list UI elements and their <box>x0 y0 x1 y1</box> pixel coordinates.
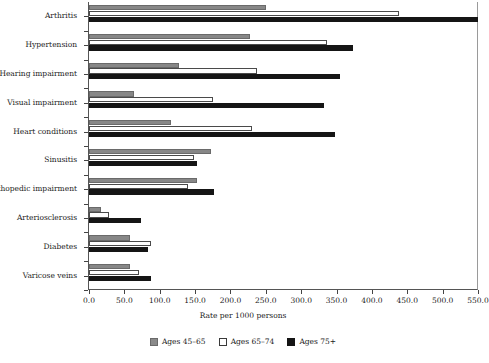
legend-item-0: Ages 45–65 <box>150 337 206 346</box>
bar-sinusitis-series-2 <box>89 161 197 166</box>
x-axis-title: Rate per 1000 persons <box>0 311 486 320</box>
y-tick-major <box>84 16 88 17</box>
x-tick-label: 250.0 <box>255 296 276 305</box>
bar-visual-impairment-series-2 <box>89 103 324 108</box>
y-label-hypertension: Hypertension <box>26 40 84 49</box>
legend-label-1: Ages 65–74 <box>231 337 275 346</box>
y-tick-minor <box>84 31 88 32</box>
y-label-orthopedic-impairment: Orthopedic impairment <box>0 184 84 193</box>
y-tick-minor <box>84 290 88 291</box>
y-tick-minor <box>84 88 88 89</box>
y-label-heart-conditions: Heart conditions <box>13 127 84 136</box>
bar-diabetes-series-1 <box>89 241 151 246</box>
bars-layer <box>89 2 478 290</box>
bar-diabetes-series-0 <box>89 235 130 240</box>
y-label-arthritis: Arthritis <box>45 11 84 20</box>
bar-heart-conditions-series-1 <box>89 126 252 131</box>
y-tick-major <box>84 189 88 190</box>
bar-visual-impairment-series-0 <box>89 91 134 96</box>
y-tick-minor <box>84 117 88 118</box>
series-1-swatch <box>219 338 227 346</box>
x-tick <box>478 290 479 294</box>
bar-orthopedic-impairment-series-0 <box>89 178 197 183</box>
x-tick-label: 150.0 <box>184 296 205 305</box>
x-tick <box>89 290 90 294</box>
bar-hearing-impairment-series-2 <box>89 74 340 79</box>
bar-hypertension-series-2 <box>89 45 353 50</box>
y-label-diabetes: Diabetes <box>44 242 84 251</box>
bar-varicose-veins-series-1 <box>89 270 139 275</box>
y-axis-category-labels: ArthritisHypertensionHearing impairmentV… <box>0 2 84 290</box>
y-label-sinusitis: Sinusitis <box>44 155 84 164</box>
y-tick-minor <box>84 60 88 61</box>
y-tick-minor <box>84 204 88 205</box>
bar-heart-conditions-series-0 <box>89 120 171 125</box>
bar-hearing-impairment-series-0 <box>89 63 179 68</box>
x-tick-label: 350.0 <box>326 296 347 305</box>
bar-orthopedic-impairment-series-2 <box>89 189 214 194</box>
bar-arthritis-series-1 <box>89 11 399 16</box>
bar-sinusitis-series-0 <box>89 149 211 154</box>
x-tick-label: 400.0 <box>361 296 382 305</box>
x-tick-label: 500.0 <box>432 296 453 305</box>
bar-varicose-veins-series-2 <box>89 276 151 281</box>
x-tick <box>337 290 338 294</box>
bar-heart-conditions-series-2 <box>89 132 335 137</box>
x-tick <box>195 290 196 294</box>
legend-item-1: Ages 65–74 <box>219 337 275 346</box>
x-tick <box>301 290 302 294</box>
bar-diabetes-series-2 <box>89 247 148 252</box>
legend-label-2: Ages 75+ <box>299 337 336 346</box>
x-tick <box>372 290 373 294</box>
y-tick-minor <box>84 261 88 262</box>
bar-hearing-impairment-series-1 <box>89 68 257 73</box>
bar-orthopedic-impairment-series-1 <box>89 184 188 189</box>
legend-label-0: Ages 45–65 <box>162 337 206 346</box>
y-label-varicose-veins: Varicose veins <box>23 271 84 280</box>
x-tick <box>160 290 161 294</box>
y-tick-major <box>84 132 88 133</box>
x-tick-label: 0.0 <box>83 296 95 305</box>
bar-arteriosclerosis-series-2 <box>89 218 141 223</box>
bar-visual-impairment-series-1 <box>89 97 213 102</box>
y-tick-major <box>84 74 88 75</box>
y-label-visual-impairment: Visual impairment <box>7 98 84 107</box>
legend-item-2: Ages 75+ <box>287 337 336 346</box>
y-tick-major <box>84 247 88 248</box>
y-tick-minor <box>84 232 88 233</box>
x-tick <box>407 290 408 294</box>
series-2-swatch <box>287 338 295 346</box>
bar-arteriosclerosis-series-1 <box>89 212 109 217</box>
x-tick-label: 100.0 <box>149 296 170 305</box>
x-tick <box>230 290 231 294</box>
y-label-arteriosclerosis: Arteriosclerosis <box>17 213 84 222</box>
bar-hypertension-series-1 <box>89 40 327 45</box>
x-tick <box>266 290 267 294</box>
x-tick <box>124 290 125 294</box>
bar-hypertension-series-0 <box>89 34 250 39</box>
x-tick-label: 200.0 <box>220 296 241 305</box>
y-tick-major <box>84 160 88 161</box>
bar-arthritis-series-2 <box>89 17 478 22</box>
y-tick-major <box>84 103 88 104</box>
x-tick-label: 300.0 <box>290 296 311 305</box>
chart-legend: Ages 45–65 Ages 65–74 Ages 75+ <box>0 337 486 346</box>
x-tick-label: 450.0 <box>397 296 418 305</box>
y-tick-major <box>84 45 88 46</box>
y-tick-minor <box>84 175 88 176</box>
y-tick-major <box>84 218 88 219</box>
y-tick-minor <box>84 146 88 147</box>
x-tick <box>443 290 444 294</box>
bar-arthritis-series-0 <box>89 5 266 10</box>
bar-varicose-veins-series-0 <box>89 264 130 269</box>
bar-sinusitis-series-1 <box>89 155 194 160</box>
bar-arteriosclerosis-series-0 <box>89 207 101 212</box>
y-tick-major <box>84 276 88 277</box>
series-0-swatch <box>150 338 158 346</box>
x-tick-label: 550.0 <box>467 296 488 305</box>
y-label-hearing-impairment: Hearing impairment <box>0 69 84 78</box>
x-tick-label: 50.0 <box>116 296 133 305</box>
